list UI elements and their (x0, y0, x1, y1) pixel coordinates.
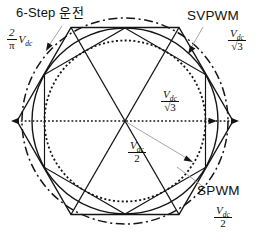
six-step-leader-line (48, 26, 62, 47)
svpwm-label: SVPWM (187, 9, 239, 23)
fraction-numerator: Vdc (214, 205, 232, 218)
svpwm-radius-value-top: Vdc √3 (228, 28, 246, 53)
spwm-radius-value-mid: Vdc 2 (128, 140, 146, 165)
fraction-numerator: Vdc (128, 140, 146, 153)
spwm-radius-arrowhead (184, 156, 193, 163)
fraction-numerator: Vdc (161, 89, 179, 102)
fraction-denominator: √3 (231, 41, 243, 53)
spwm-radius-value-bottom: Vdc 2 (214, 205, 232, 230)
spwm-label: SPWM (197, 184, 240, 198)
svpwm-radius-arrowhead (209, 118, 218, 124)
axis-arrow-right (231, 118, 239, 124)
fraction-denominator: √3 (164, 102, 176, 114)
fraction-denominator: π (9, 40, 15, 52)
fraction-numerator: 2 (7, 27, 17, 40)
svpwm-radius-value-axis: Vdc √3 (161, 89, 179, 114)
fraction-denominator: 2 (134, 153, 140, 165)
axis-arrow-left (11, 118, 19, 124)
pwm-voltage-utilization-figure: 6-Step 운전 SVPWM SPWM 2 π Vdc Vdc √3 Vdc … (0, 0, 261, 247)
vdc-symbol: Vdc (19, 33, 33, 45)
six-step-label: 6-Step 운전 (16, 6, 84, 20)
fraction-denominator: 2 (220, 218, 226, 230)
six-step-radius-value: 2 π Vdc (7, 27, 32, 52)
svpwm-leader-line (191, 27, 203, 48)
fraction-numerator: Vdc (228, 28, 246, 41)
